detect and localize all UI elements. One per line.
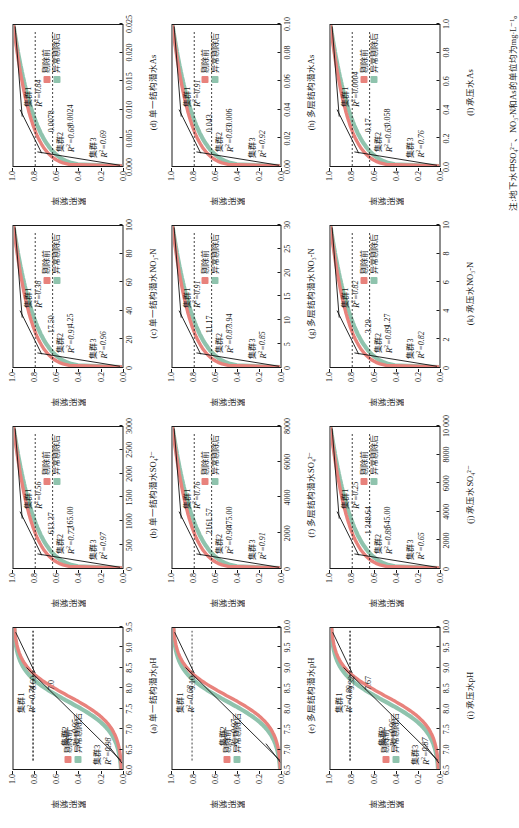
- r2-symbol: R2=: [416, 546, 425, 559]
- r2-symbol: R2=: [99, 345, 108, 358]
- breakpoint-value-i-1: 9.32: [346, 676, 355, 690]
- x-axis-ticks-h: 0.000.020.040.060.080.10: [281, 24, 295, 167]
- y-tick-mark: [395, 570, 396, 573]
- x-tick-label: 7.0: [441, 745, 450, 755]
- x-tick-label: 40: [124, 307, 133, 315]
- chart-caption-a: (a) 单一结构潜水pH: [145, 621, 157, 770]
- y-tick-mark: [100, 168, 101, 171]
- x-tick-mark: [436, 338, 439, 339]
- y-tick-label: 0.2: [413, 774, 422, 784]
- legend-item-before: 剔除前: [222, 713, 232, 763]
- x-tick-mark: [119, 310, 122, 311]
- x-tick-label: 0.00: [282, 160, 291, 174]
- y-axis-label-j: 累积频率: [329, 596, 440, 609]
- breakpoint-value-f-2: 475.00: [224, 507, 233, 529]
- y-axis-ticks-k: 0.00.20.40.60.81.0: [329, 369, 440, 395]
- r2-symbol: R2=: [66, 340, 75, 353]
- x-tick-mark: [277, 343, 280, 344]
- x-tick-mark: [277, 425, 280, 426]
- x-tick-label: 2000: [124, 466, 133, 482]
- cluster-name: 集群2: [215, 125, 223, 152]
- x-tick-mark: [119, 769, 122, 770]
- cluster-name: 集群3: [406, 130, 414, 157]
- chart-caption-f: (f) 多层结构潜水SO₄²⁻: [303, 420, 315, 569]
- y-axis-label-c: 累积频率: [12, 395, 123, 408]
- y-tick-mark: [12, 771, 13, 774]
- x-tick-label: 8.0: [441, 704, 450, 714]
- breakpoint-value-h-1: 0.043: [204, 114, 213, 132]
- x-tick-label: 0.010: [124, 101, 133, 119]
- x-tick-label: 0.4: [441, 105, 450, 115]
- y-tick-mark: [373, 771, 374, 774]
- y-axis-label-a: 累积频率: [12, 797, 123, 810]
- legend-label-before: 剔除前: [41, 49, 51, 73]
- x-tick-label: 0: [282, 366, 291, 370]
- y-axis-label-text: 累积频率: [367, 798, 403, 810]
- cluster-name: 集群3: [89, 331, 97, 358]
- chart-caption-b: (b) 单一结构潜水SO₄²⁻: [145, 420, 157, 569]
- y-tick-label: 0.0: [118, 372, 127, 382]
- legend-swatch-after-icon: [53, 76, 60, 83]
- cluster-annotation-f-2: 集群2R2=0.90: [215, 527, 234, 554]
- y-tick-label: 0.4: [74, 171, 83, 181]
- x-tick-mark: [277, 769, 280, 770]
- cluster-annotation-f-1: 集群1R2=0.76: [183, 481, 202, 508]
- y-axis-ticks-h: 0.00.20.40.60.81.0: [171, 168, 282, 194]
- legend-label-before: 剔除前: [41, 250, 51, 274]
- y-tick-mark: [281, 369, 282, 372]
- y-axis-label-text: 累积频率: [208, 597, 244, 609]
- r2-value: 0.69: [99, 130, 108, 144]
- x-tick-mark: [436, 511, 439, 512]
- r2-value: 0.91: [258, 532, 267, 546]
- x-tick-mark: [436, 23, 439, 24]
- cluster-name: 集群2: [56, 326, 64, 353]
- y-tick-mark: [417, 369, 418, 372]
- cluster-r2: R2=0.76: [191, 481, 202, 508]
- plot-area-j: 集群1R2=0.25集群2R2=0.88集群3R2=0.651 348.6454…: [329, 426, 440, 569]
- legend-label-before: 剔除前: [359, 250, 369, 274]
- cluster-annotation-c-1: 集群1R2=0.38: [24, 280, 43, 307]
- chart-grid: 累积频率0.00.20.40.60.81.0集群1R2=0.74集群2R2=0.…: [6, 18, 476, 810]
- legend-item-after: 异常剔除后: [210, 33, 220, 83]
- cluster-name: 集群1: [335, 685, 343, 712]
- legend-label-after: 异常剔除后: [369, 435, 379, 475]
- cluster-name: 集群1: [341, 280, 349, 307]
- cluster-name: 集群3: [411, 737, 419, 764]
- r2-symbol: R2=: [384, 541, 393, 554]
- plot-area-i: 集群1R2=0.89集群2R2=0.96集群3R2=0.879.327.67剔除…: [329, 627, 440, 770]
- chart-cell-c: 累积频率0.00.20.40.60.81.0集群1R2=0.38集群2R2=0.…: [6, 219, 159, 408]
- x-tick-mark: [436, 109, 439, 110]
- legend-label-after: 异常剔除后: [51, 435, 61, 475]
- x-tick-label: 10.0: [282, 620, 291, 634]
- cluster-r2: R2=0.91: [191, 280, 202, 307]
- cluster-annotation-b-1: 集群1R2=0.56: [24, 481, 43, 508]
- y-tick-label: 0.2: [413, 573, 422, 583]
- y-axis-label-text: 累积频率: [367, 195, 403, 207]
- cluster-annotation-a-3: 集群3R2=0.98: [93, 737, 112, 764]
- x-tick-mark: [277, 532, 280, 533]
- y-axis-ticks-i: 0.00.20.40.60.81.0: [329, 771, 440, 797]
- cluster-r2: R2=0.84: [32, 79, 43, 106]
- x-tick-mark: [277, 708, 280, 709]
- chart-cell-f: 累积频率0.00.20.40.60.81.0集群1R2=0.76集群2R2=0.…: [165, 420, 318, 609]
- cluster-r2: R2=0.87: [223, 326, 234, 353]
- y-tick-mark: [329, 369, 330, 372]
- legend-d: 剔除前异常剔除后: [41, 33, 61, 83]
- legend-swatch-after-icon: [211, 277, 218, 284]
- y-tick-mark: [440, 168, 441, 171]
- x-tick-label: 80: [124, 250, 133, 258]
- y-tick-label: 0.8: [30, 774, 39, 784]
- y-axis-ticks-c: 0.00.20.40.60.81.0: [12, 369, 123, 395]
- cluster-annotation-g-3: 集群3R2=0.85: [248, 331, 267, 358]
- breakpoint-value-f-1: 2161.57: [204, 508, 213, 534]
- r2-symbol: R2=: [225, 139, 234, 152]
- x-tick-label: 0.0: [441, 162, 450, 172]
- x-axis-ticks-c: 020406080100: [123, 225, 137, 368]
- legend-item-after: 异常剔除后: [369, 234, 379, 284]
- breakpoint-value-e-1: 9.10: [187, 676, 196, 690]
- r2-value: 0.92: [258, 130, 267, 144]
- breakpoint-value-l-1: 0.17: [363, 118, 372, 132]
- cluster-r2: R2=0.65: [415, 532, 426, 559]
- y-tick-mark: [192, 369, 193, 372]
- y-tick-label: 0.6: [52, 171, 61, 181]
